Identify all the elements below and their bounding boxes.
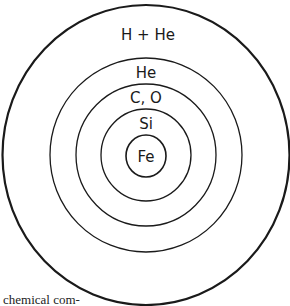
onion-shell-diagram: H + He He C, O Si Fe — [0, 0, 290, 306]
label-fe: Fe — [137, 148, 154, 166]
label-h-he: H + He — [121, 26, 175, 44]
label-si: Si — [139, 115, 153, 133]
label-he: He — [136, 64, 157, 82]
caption-fragment: e chemical com- — [0, 292, 80, 306]
label-c-o: C, O — [130, 89, 162, 107]
